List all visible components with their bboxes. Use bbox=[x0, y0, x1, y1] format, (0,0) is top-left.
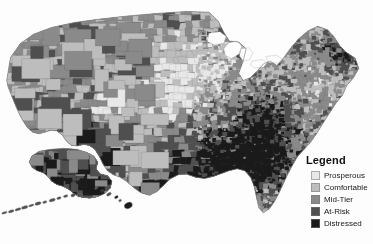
legend-label-mid-tier: Mid-Tier bbox=[324, 195, 353, 205]
map-figure: Legend Prosperous Comfortable Mid-Tier A… bbox=[0, 0, 373, 244]
legend-label-prosperous: Prosperous bbox=[324, 171, 365, 181]
legend-label-at-risk: At-Risk bbox=[324, 207, 350, 217]
legend-title: Legend bbox=[306, 154, 373, 167]
legend-item-mid-tier: Mid-Tier bbox=[311, 194, 373, 205]
legend-item-comfortable: Comfortable bbox=[311, 182, 373, 193]
legend-swatch-prosperous bbox=[311, 171, 320, 180]
legend-swatch-mid-tier bbox=[311, 195, 320, 204]
legend-label-comfortable: Comfortable bbox=[324, 183, 368, 193]
legend-swatch-distressed bbox=[311, 219, 320, 228]
legend-item-at-risk: At-Risk bbox=[311, 206, 373, 217]
legend-swatch-comfortable bbox=[311, 183, 320, 192]
legend-swatch-at-risk bbox=[311, 207, 320, 216]
legend-item-prosperous: Prosperous bbox=[311, 170, 373, 181]
legend: Legend Prosperous Comfortable Mid-Tier A… bbox=[303, 152, 373, 230]
legend-label-distressed: Distressed bbox=[324, 219, 362, 229]
legend-item-distressed: Distressed bbox=[311, 218, 373, 229]
